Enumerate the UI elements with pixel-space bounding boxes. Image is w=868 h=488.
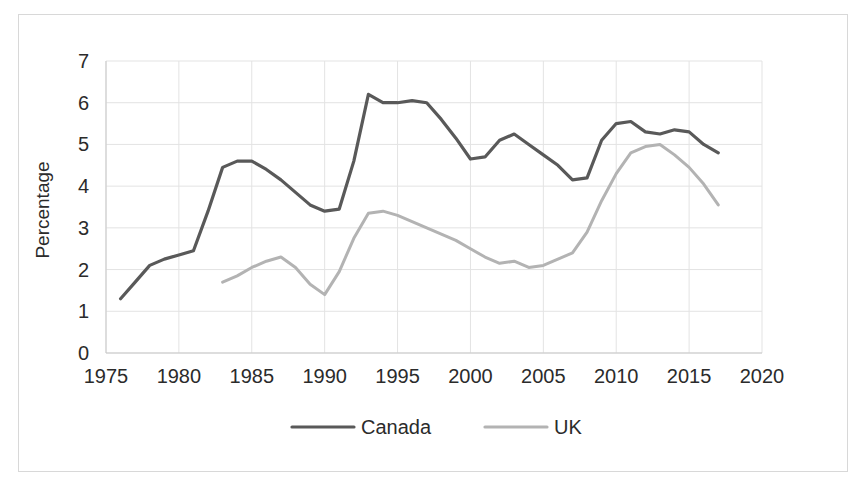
series-layer	[121, 94, 719, 298]
y-tick-label: 7	[78, 50, 89, 72]
y-axis-title: Percentage	[32, 161, 53, 258]
y-tick-label: 3	[78, 217, 89, 239]
axis-layer	[106, 61, 762, 353]
x-tick-label: 1975	[84, 365, 129, 387]
y-tick-label: 0	[78, 342, 89, 364]
series-line-canada	[121, 94, 719, 298]
x-tick-label: 2015	[667, 365, 712, 387]
y-tick-label: 2	[78, 259, 89, 281]
x-tick-label: 2010	[594, 365, 639, 387]
x-tick-label: 1980	[157, 365, 202, 387]
y-tick-label: 6	[78, 92, 89, 114]
x-tick-label: 2020	[740, 365, 785, 387]
x-tick-label: 1995	[375, 365, 420, 387]
y-tick-label: 4	[78, 175, 89, 197]
legend-label-uk: UK	[554, 416, 582, 438]
legend-label-canada: Canada	[361, 416, 432, 438]
tick-label-layer: 0123456719751980198519901995200020052010…	[78, 50, 784, 387]
x-tick-label: 2000	[448, 365, 493, 387]
chart-container: 0123456719751980198519901995200020052010…	[0, 0, 868, 488]
y-tick-label: 1	[78, 300, 89, 322]
x-tick-label: 2005	[521, 365, 566, 387]
legend-layer: CanadaUK	[292, 416, 582, 438]
x-tick-label: 1985	[230, 365, 275, 387]
y-tick-label: 5	[78, 133, 89, 155]
grid-layer	[106, 61, 762, 353]
chart-svg: 0123456719751980198519901995200020052010…	[0, 0, 868, 488]
x-tick-label: 1990	[302, 365, 347, 387]
